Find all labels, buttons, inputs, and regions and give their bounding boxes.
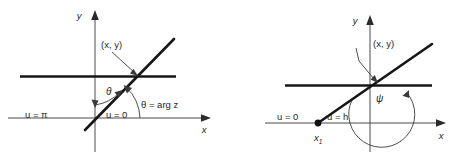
right-x-axis-arrowhead	[436, 119, 446, 127]
math-figure-svg: y x (x, y) θ θ = arg z u = π u = 0	[0, 0, 471, 166]
left-theta-arc-arrowhead-lower	[92, 100, 99, 109]
left-panel-group: y x (x, y) θ θ = arg z u = π u = 0	[8, 10, 211, 152]
left-x-axis-arrowhead	[201, 114, 211, 122]
right-point-label: (x, y)	[373, 38, 394, 49]
left-x-axis-label: x	[201, 124, 208, 135]
left-point-leader	[112, 52, 135, 73]
left-boundary-upper-label: u = π	[25, 109, 48, 120]
right-point-leader	[356, 48, 374, 79]
figure-root: y x (x, y) θ θ = arg z u = π u = 0	[0, 0, 471, 166]
left-boundary-lower-label: u = 0	[106, 109, 127, 120]
right-psi-label: ψ	[376, 93, 384, 104]
left-y-axis-label: y	[76, 10, 83, 21]
left-ray-line	[85, 39, 174, 130]
right-y-axis-arrowhead	[366, 15, 374, 25]
right-panel-group: y x (x, y) ψ u = 0 u = h x1	[265, 15, 446, 152]
right-x-axis-label: x	[438, 130, 445, 141]
right-boundary-left-label: u = 0	[277, 111, 298, 122]
right-x1-label-subscript: 1	[319, 138, 323, 145]
right-x1-dot	[315, 120, 322, 127]
right-y-axis-label: y	[352, 15, 359, 26]
right-boundary-ray-label: u = h	[327, 111, 348, 122]
left-point-label: (x, y)	[101, 39, 122, 50]
left-y-axis-arrowhead	[91, 10, 99, 20]
left-argz-label: θ = arg z	[141, 99, 178, 110]
right-x1-label: x1	[313, 132, 323, 145]
left-theta-label: θ	[106, 86, 112, 97]
right-psi-arc-arrowhead	[403, 90, 410, 98]
